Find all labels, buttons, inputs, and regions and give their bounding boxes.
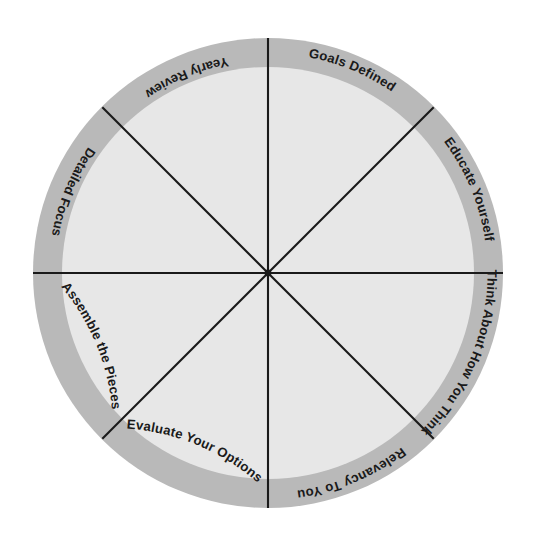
radial-wheel-svg: Goals Defined Educate Yourself Think Abo…: [0, 0, 534, 546]
wheel-diagram-canvas: Goals Defined Educate Yourself Think Abo…: [0, 0, 534, 546]
wheel-center-hub: [265, 270, 272, 277]
